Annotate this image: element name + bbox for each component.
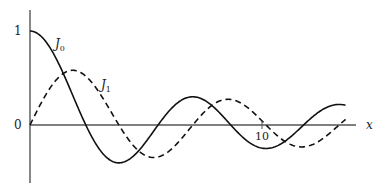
series-label-j1: J1 xyxy=(98,78,111,94)
x-axis-label: x xyxy=(366,118,373,132)
series-label-j1-sub: 1 xyxy=(106,85,111,94)
series-label-j0: J0 xyxy=(52,37,65,53)
x-tick-label-10: 10 xyxy=(255,130,269,143)
y-tick-label-1: 1 xyxy=(14,24,22,38)
series-label-j0-sub: 0 xyxy=(60,44,65,53)
y-tick-label-0: 0 xyxy=(14,118,22,132)
series-line-j0 xyxy=(30,31,346,163)
bessel-chart: 1 0 10 x J0 J1 xyxy=(0,0,386,191)
series-line-j1 xyxy=(30,70,346,157)
